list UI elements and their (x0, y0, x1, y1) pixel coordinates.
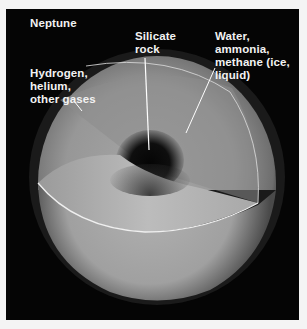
core-label: Silicate rock (135, 30, 176, 56)
planet-title: Neptune (30, 17, 77, 30)
core-shadow (110, 164, 190, 196)
outer-layer-label: Hydrogen, helium, other gases (30, 67, 96, 106)
mantle-label: Water, ammonia, methane (ice, liquid) (215, 30, 307, 82)
